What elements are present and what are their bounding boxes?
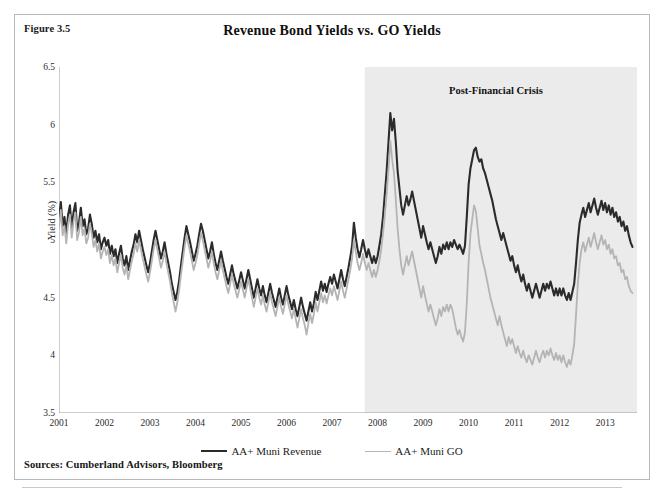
x-axis-tick-label: 2007: [323, 418, 342, 428]
y-axis-tick-label: 5: [50, 235, 55, 245]
x-axis-tick-label: 2001: [50, 418, 69, 428]
y-axis-tick-label: 3.5: [43, 408, 55, 418]
x-axis-tick-label: 2009: [414, 418, 433, 428]
sources-note: Sources: Cumberland Advisors, Bloomberg: [24, 459, 223, 470]
x-axis-tick-label: 2005: [232, 418, 251, 428]
legend-label: AA+ Muni GO: [395, 445, 462, 457]
x-axis-tick-label: 2010: [459, 418, 478, 428]
x-axis-tick-label: 2008: [368, 418, 387, 428]
footer-rule: [22, 487, 622, 488]
legend-entry: AA+ Muni GO: [365, 445, 462, 457]
x-axis-tick-label: 2002: [95, 418, 114, 428]
chart-canvas: [59, 67, 637, 413]
x-axis-tick-label: 2012: [550, 418, 569, 428]
x-axis-tick-label: 2003: [141, 418, 160, 428]
plot-area: Yield (%) 3.544.555.566.5200120022003200…: [59, 67, 637, 413]
y-axis-title: Yield (%): [46, 181, 57, 261]
figure-frame: Figure 3.5 Revenue Bond Yields vs. GO Yi…: [14, 14, 650, 480]
chart-legend: AA+ Muni RevenueAA+ Muni GO: [15, 445, 649, 457]
y-axis-tick-label: 4.5: [43, 293, 55, 303]
x-axis-tick-label: 2013: [596, 418, 615, 428]
y-axis-tick-label: 4: [50, 350, 55, 360]
legend-line-icon: [201, 450, 227, 452]
legend-line-icon: [365, 451, 391, 452]
legend-label: AA+ Muni Revenue: [231, 445, 321, 457]
x-axis-tick-label: 2006: [277, 418, 296, 428]
legend-entry: AA+ Muni Revenue: [201, 445, 321, 457]
y-axis-tick-label: 6: [50, 120, 55, 130]
chart-title: Revenue Bond Yields vs. GO Yields: [15, 23, 649, 39]
y-axis-tick-label: 6.5: [43, 62, 55, 72]
shaded-region-label: Post-Financial Crisis: [449, 85, 543, 96]
y-axis-tick-label: 5.5: [43, 177, 55, 187]
x-axis-tick-label: 2004: [186, 418, 205, 428]
x-axis-tick-label: 2011: [505, 418, 524, 428]
